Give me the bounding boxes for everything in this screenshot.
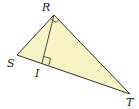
triangle-rst xyxy=(17,15,130,94)
vertex-label-t: T xyxy=(126,97,133,108)
triangle-diagram xyxy=(0,0,139,109)
vertex-label-r: R xyxy=(42,2,50,13)
vertex-label-i: I xyxy=(35,68,39,79)
vertex-label-s: S xyxy=(7,58,15,69)
